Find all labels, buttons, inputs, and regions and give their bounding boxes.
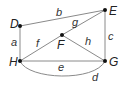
node-label-e: E: [109, 4, 118, 18]
node-g: [103, 59, 107, 63]
node-label-g: G: [109, 55, 118, 69]
node-h: [18, 59, 22, 63]
edge-label-b: b: [56, 6, 62, 18]
edge-label-d: d: [92, 71, 99, 83]
edge-label-g: g: [72, 16, 79, 28]
edge-label-c: c: [108, 30, 114, 42]
edge-b: [20, 10, 105, 26]
edge-label-h: h: [85, 35, 91, 47]
edge-f: [20, 35, 62, 61]
edge-label-e: e: [58, 61, 64, 73]
edge-label-f: f: [36, 37, 40, 49]
node-label-d: D: [10, 17, 19, 31]
graph-diagram: D E F G H a b c d e f g h: [0, 0, 123, 85]
node-label-h: H: [9, 55, 18, 69]
node-f: [60, 33, 64, 37]
edge-h: [62, 35, 105, 61]
edge-label-a: a: [11, 36, 17, 48]
node-e: [103, 8, 107, 12]
node-label-f: F: [57, 38, 65, 52]
